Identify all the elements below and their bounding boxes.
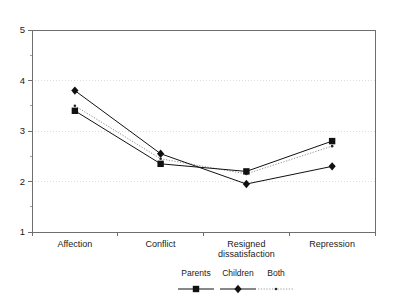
legend-marker-children [234,285,241,293]
series-line-children [75,91,332,184]
legend-marker-parents [193,286,199,292]
x-axis-ticks [32,232,375,236]
line-chart-figure: 12345 AffectionConflictResigneddissatisf… [0,0,402,304]
legend-marker-both [275,288,278,291]
series-line-both [75,106,332,174]
datapoint-children-0 [71,86,78,94]
x-tick-label-2: Resigned [227,239,265,249]
x-tick-label-1: Conflict [146,239,177,249]
legend-label-parents: Parents [181,268,210,278]
datapoint-parents-1 [157,161,163,167]
y-tick-label-3: 3 [20,125,25,136]
legend-label-both: Both [267,268,285,278]
x-tick-label-2-line2: dissatisfaction [218,249,275,259]
x-tick-label-3: Repression [309,239,355,249]
x-tick-label-0: Affection [57,239,92,249]
datapoint-parents-2 [243,168,249,174]
legend-label-children: Children [222,268,254,278]
datapoint-children-1 [157,150,164,158]
y-tick-label-2: 2 [20,176,25,187]
datapoint-both-0 [74,104,77,107]
y-axis-ticks [28,30,32,232]
datapoint-both-3 [331,145,334,148]
gridlines [32,81,375,182]
series-markers [71,86,335,188]
datapoint-parents-3 [329,138,335,144]
y-tick-label-4: 4 [20,75,25,86]
series-lines [75,91,332,184]
datapoint-children-3 [329,162,336,170]
datapoint-children-2 [243,180,250,188]
series-line-parents [75,111,332,172]
chart-canvas: 12345 AffectionConflictResigneddissatisf… [0,0,402,304]
y-axis-tick-labels: 12345 [20,24,25,237]
x-axis-tick-labels: AffectionConflictResigneddissatisfaction… [57,239,354,259]
y-tick-label-5: 5 [20,24,25,35]
chart-legend: ParentsChildrenBoth [178,268,294,293]
datapoint-parents-0 [72,108,78,114]
y-tick-label-1: 1 [20,226,25,237]
